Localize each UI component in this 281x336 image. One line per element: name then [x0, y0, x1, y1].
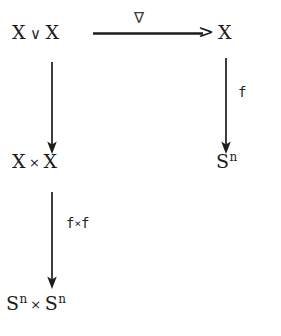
node-s-n-times-s-n-base-1: S — [6, 292, 20, 314]
nabla-icon: ∇ — [134, 11, 144, 26]
node-s-n-base: S — [216, 150, 230, 172]
node-s-n-times-s-n-sup-2: n — [58, 292, 66, 306]
node-x-wedge-x-left: X — [12, 21, 26, 43]
node-x-target: X — [218, 23, 232, 42]
node-x-wedge-x-right: X — [46, 21, 60, 43]
arrow-right-vertical — [221, 58, 231, 154]
node-s-n-times-s-n-base-2: S — [45, 292, 59, 314]
edge-label-f-times-f: f×f — [66, 216, 90, 230]
arrowhead-right-icon: > — [198, 22, 214, 41]
node-x-times-x-right: X — [43, 150, 57, 172]
node-x-target-label: X — [218, 21, 232, 43]
arrow-left-vertical-upper — [47, 62, 57, 154]
arrow-left-vertical-lower — [47, 192, 57, 289]
times-operator-bottom-icon: × — [27, 297, 44, 312]
times-operator-icon: × — [26, 155, 43, 170]
edge-label-f-times-f-right: f — [81, 215, 89, 231]
edge-label-f: f — [238, 85, 246, 99]
node-x-times-x-left: X — [12, 150, 26, 172]
node-s-n-times-s-n: Sn×Sn — [6, 294, 66, 313]
node-s-n: Sn — [216, 152, 237, 171]
wedge-operator-icon: ∨ — [26, 25, 45, 43]
node-x-wedge-x: X∨X — [12, 23, 60, 42]
node-x-times-x: X×X — [12, 152, 57, 171]
node-s-n-superscript: n — [230, 150, 238, 164]
commutative-diagram: > X∨X X X×X Sn Sn×Sn ∇ f f×f — [0, 0, 281, 336]
